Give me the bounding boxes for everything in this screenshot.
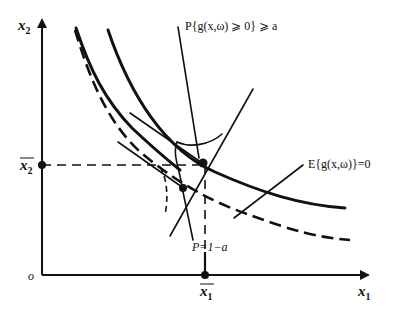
x2-bar-label: x2 xyxy=(19,157,33,176)
x1-bar-label: x1 xyxy=(199,283,213,302)
optimal-point xyxy=(199,159,208,168)
origin-label: o xyxy=(28,269,34,283)
expected-pointer-line xyxy=(234,165,303,218)
probability-pointer-line xyxy=(178,27,199,158)
secondary-point xyxy=(179,184,187,192)
x2-axis-label: x2 xyxy=(17,17,31,36)
x1-axis-label: x1 xyxy=(357,283,371,302)
probability-boundary-curve xyxy=(75,30,350,240)
expected-constraint-label: E{g(x,ω)}=0 xyxy=(308,157,371,171)
x2-bar-point xyxy=(38,161,46,169)
x1-bar-point xyxy=(201,271,209,279)
stochastic-constraint-diagram: x2 x1 o x2 x1 P{g(x,ω) ⩾ 0} ⩾ a E{g(x,ω)… xyxy=(0,0,399,313)
distribution-curve-top xyxy=(177,134,222,145)
probability-level-label: P=1−a xyxy=(191,240,228,254)
probability-constraint-label: P{g(x,ω) ⩾ 0} ⩾ a xyxy=(185,19,278,33)
lower-tangent-line xyxy=(182,187,193,240)
expected-value-boundary-curve xyxy=(108,30,345,208)
